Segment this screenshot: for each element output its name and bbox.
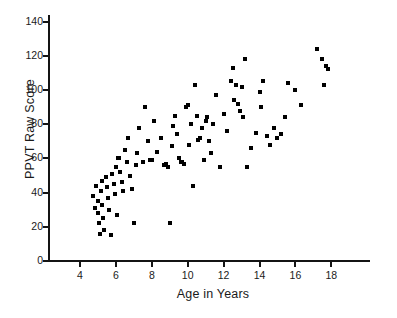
data-point [234,83,238,87]
data-point [117,156,121,160]
data-point [240,85,244,89]
data-point [99,189,103,193]
data-point [110,172,114,176]
data-point [322,83,326,87]
data-point [114,165,118,169]
data-point [100,203,104,207]
data-point [175,132,179,136]
data-point [241,115,245,119]
data-point [120,180,124,184]
data-point [231,66,235,70]
data-point [170,144,174,148]
data-point [104,175,108,179]
data-point [126,136,130,140]
data-point [254,131,258,135]
data-point [112,182,116,186]
data-point [249,146,253,150]
data-point [198,136,202,140]
data-point [130,187,134,191]
data-point [200,126,204,130]
data-point [106,196,110,200]
data-point [115,213,119,217]
data-point [113,192,117,196]
data-point [143,105,147,109]
data-point [275,136,279,140]
data-point [193,83,197,87]
data-point [105,185,109,189]
data-point [93,206,97,210]
data-point [186,103,190,107]
data-point [150,158,154,162]
data-point [171,124,175,128]
data-point [218,165,222,169]
data-point [102,228,106,232]
data-point [238,109,242,113]
data-point [159,136,163,140]
data-point [132,221,136,225]
data-point [209,151,213,155]
data-point [173,114,177,118]
data-point [96,211,100,215]
data-point [214,93,218,97]
data-point [166,165,170,169]
data-point [279,132,283,136]
data-point [204,119,208,123]
data-point [98,232,102,236]
data-point [168,221,172,225]
data-point [100,179,104,183]
data-point [202,158,206,162]
data-point [191,184,195,188]
data-point [187,143,191,147]
data-point [91,194,95,198]
data-point [225,129,229,133]
data-point [229,79,233,83]
data-point [152,119,156,123]
data-point [261,79,265,83]
data-point [118,170,122,174]
data-point [258,90,262,94]
data-point [293,88,297,92]
data-point [135,151,139,155]
data-point [315,47,319,51]
data-point [286,81,290,85]
data-point [320,57,324,61]
data-point [211,122,215,126]
data-point [259,105,263,109]
data-point [146,139,150,143]
data-point [141,160,145,164]
data-point [326,67,330,71]
data-point [123,148,127,152]
data-point [125,160,129,164]
data-point [243,57,247,61]
data-point [97,221,101,225]
plot-data-area [0,0,397,318]
data-point [245,165,249,169]
data-point [101,216,105,220]
data-point [268,143,272,147]
data-point [189,122,193,126]
data-point [128,174,132,178]
data-point [283,115,287,119]
data-point [299,103,303,107]
data-point [137,126,141,130]
data-point [265,134,269,138]
data-point [155,150,159,154]
data-point [205,115,209,119]
data-point [107,208,111,212]
data-point [121,189,125,193]
data-point [195,114,199,118]
data-point [272,126,276,130]
data-point [96,199,100,203]
data-point [236,102,240,106]
scatter-plot-figure: PPVT Raw Score Age in Years 140120100806… [0,0,397,318]
data-point [222,112,226,116]
data-point [109,233,113,237]
data-point [182,162,186,166]
data-point [134,163,138,167]
data-point [207,139,211,143]
data-point [94,184,98,188]
